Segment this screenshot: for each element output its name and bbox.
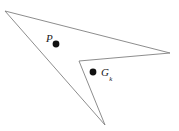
point-marker-p (53, 41, 60, 48)
point-label-g-text: G (101, 66, 109, 78)
point-label-p-text: P (46, 32, 53, 44)
polygon-diagram-svg (0, 0, 179, 131)
figure-canvas: P Gk (0, 0, 179, 131)
point-label-g: Gk (101, 67, 112, 81)
point-label-p: P (46, 33, 53, 44)
concave-polygon-outline (5, 11, 170, 125)
point-marker-g (90, 69, 97, 76)
point-label-g-subscript: k (109, 75, 112, 82)
